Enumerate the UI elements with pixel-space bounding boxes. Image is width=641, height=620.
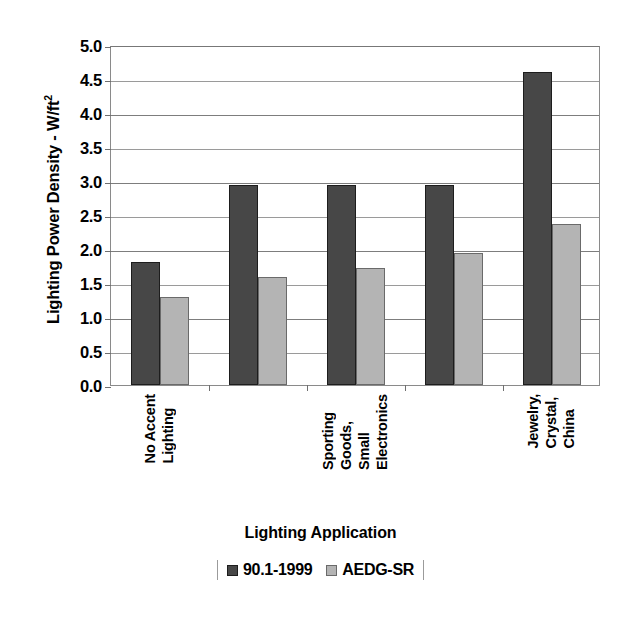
y-axis-tick-label: 3.5 (46, 139, 102, 158)
x-axis-category-label-line: No Accent (141, 394, 159, 463)
chart-legend: 90.1-1999AEDG-SR (0, 560, 641, 580)
x-axis-tick-mark (503, 385, 504, 391)
x-axis-category-labels: No AccentLightingSportingGoods,SmallElec… (110, 392, 600, 522)
bar (258, 277, 287, 385)
x-axis-category-label: Jewelry,Crystal,China (524, 394, 578, 449)
legend-box: 90.1-1999AEDG-SR (217, 560, 424, 580)
legend-item: AEDG-SR (326, 561, 414, 579)
y-axis-tick-mark (105, 149, 111, 150)
x-axis-category-label: SportingGoods,SmallElectronics (319, 394, 391, 470)
bar (160, 297, 189, 385)
y-axis-tick-label: 3.0 (46, 173, 102, 192)
y-axis-tick-mark (105, 115, 111, 116)
y-axis-tick-mark (105, 217, 111, 218)
legend-label: AEDG-SR (342, 561, 414, 579)
y-axis-tick-mark (105, 81, 111, 82)
plot-area (110, 46, 600, 386)
y-axis-tick-mark (105, 387, 111, 388)
x-axis-tick-mark (307, 385, 308, 391)
x-axis-tick-mark (209, 385, 210, 391)
dark-gray-swatch (227, 565, 238, 576)
light-gray-swatch (326, 565, 337, 576)
y-axis-tick-label: 0.0 (46, 377, 102, 396)
x-axis-category-label-line: Jewelry, (524, 394, 542, 449)
y-axis-tick-mark (105, 251, 111, 252)
y-axis-tick-label: 1.0 (46, 309, 102, 328)
x-axis-category-label-line: Sporting (319, 394, 337, 470)
x-axis-category-label: No AccentLighting (141, 394, 177, 463)
y-axis-tick-label: 2.5 (46, 207, 102, 226)
x-axis-category-label-line: Crystal, (542, 394, 560, 449)
x-axis-category-label-line: China (560, 394, 578, 449)
bar-chart-figure: Lighting Power Density - W/ft2 5.04.54.0… (0, 0, 641, 620)
y-axis-tick-mark (105, 183, 111, 184)
x-axis-category-label-line: Goods, (337, 394, 355, 470)
y-axis-tick-mark (105, 285, 111, 286)
y-axis-tick-label: 2.0 (46, 241, 102, 260)
bar (131, 262, 160, 385)
bar (327, 185, 356, 385)
y-axis-tick-labels: 5.04.54.03.53.02.52.01.51.00.50.0 (46, 46, 102, 386)
y-axis-tick-mark (105, 319, 111, 320)
x-axis-category-label-line: Lighting (159, 394, 177, 463)
bar (523, 72, 552, 385)
y-axis-tick-label: 4.5 (46, 71, 102, 90)
y-axis-tick-label: 0.5 (46, 343, 102, 362)
bar (552, 224, 581, 385)
y-axis-tick-label: 4.0 (46, 105, 102, 124)
bar (454, 253, 483, 385)
x-axis-tick-mark (405, 385, 406, 391)
y-axis-tick-label: 1.5 (46, 275, 102, 294)
legend-item: 90.1-1999 (227, 561, 312, 579)
y-axis-tick-label: 5.0 (46, 37, 102, 56)
y-axis-tick-mark (105, 47, 111, 48)
bar (425, 185, 454, 385)
y-axis-tick-mark (105, 353, 111, 354)
bar (229, 185, 258, 385)
legend-label: 90.1-1999 (243, 561, 312, 579)
bar (356, 268, 385, 385)
x-axis-category-label-line: Electronics (373, 394, 391, 470)
x-axis-category-label-line: Small (355, 394, 373, 470)
x-axis-title: Lighting Application (0, 524, 641, 542)
